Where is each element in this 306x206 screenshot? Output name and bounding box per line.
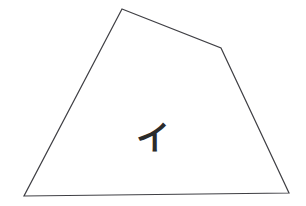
polygon-outline [24,9,289,196]
shape-drawing [0,0,306,206]
katakana-i-glyph: イ [130,112,176,164]
image-canvas: イ [0,0,306,206]
